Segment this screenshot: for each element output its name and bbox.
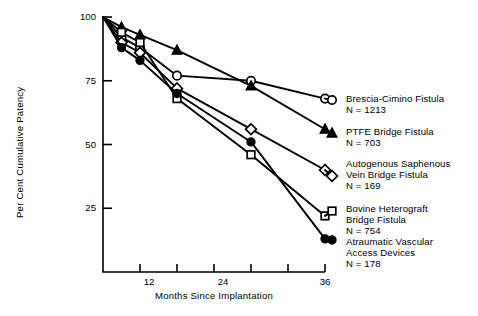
legend-item-atraumatic-vascular: Atraumatic Vascular Access Devices N = 1…	[346, 236, 433, 270]
legend-label-line-1: Atraumatic Vascular	[346, 236, 433, 247]
y-axis-label: Per Cent Cumulative Patency	[14, 87, 25, 218]
marker-filled-circle	[136, 56, 144, 64]
marker-filled-circle	[118, 44, 126, 52]
series-line	[103, 17, 325, 129]
legend-label-line-1: PTFE Bridge Fistula	[346, 126, 434, 137]
marker-open-diamond	[246, 124, 257, 135]
marker-open-circle	[173, 71, 181, 79]
legend-item-ptfe: PTFE Bridge Fistula N = 703	[346, 126, 434, 148]
legend-label-line-3: N = 178	[346, 258, 433, 269]
y-tick-label-100: 100	[54, 11, 96, 22]
legend-item-saphenous-vein: Autogenous Saphenous Vein Bridge Fistula…	[346, 158, 450, 192]
legend-label-line-2: Access Devices	[346, 247, 433, 258]
legend-label-line-2: Vein Bridge Fistula	[346, 169, 450, 180]
marker-open-square	[118, 29, 126, 37]
marker-open-square	[247, 151, 255, 159]
marker-open-square	[328, 207, 336, 215]
legend-label-line-3: N = 754	[346, 225, 428, 236]
marker-filled-circle	[328, 236, 336, 244]
x-tick-label-24: 24	[209, 276, 237, 287]
marker-open-square	[136, 39, 144, 47]
legend-label-line-1: Brescia-Cimino Fistula	[346, 93, 444, 104]
legend-label-line-1: Bovine Heterograft	[346, 203, 428, 214]
marker-filled-circle	[247, 138, 255, 146]
y-tick-label-50: 50	[54, 139, 96, 150]
marker-filled-circle	[173, 90, 181, 98]
series-2	[103, 17, 330, 133]
y-tick-label-25: 25	[54, 202, 96, 213]
legend-item-brescia-cimino: Brescia-Cimino Fistula N = 1213	[346, 93, 444, 115]
x-tick-label-12: 12	[135, 276, 163, 287]
legend-label-line-2: N = 1213	[346, 104, 444, 115]
legend-label-line-2: N = 703	[346, 137, 434, 148]
legend-label-line-2: Bridge Fistula	[346, 214, 428, 225]
x-tick-label-36: 36	[311, 276, 339, 287]
legend-label-line-3: N = 169	[346, 180, 450, 191]
chart-figure: Per Cent Cumulative Patency Months Since…	[0, 0, 478, 316]
legend-label-line-1: Autogenous Saphenous	[346, 158, 450, 169]
marker-open-circle	[328, 96, 336, 104]
y-tick-label-75: 75	[54, 75, 96, 86]
data-series	[103, 17, 330, 243]
legend-item-bovine-heterograft: Bovine Heterograft Bridge Fistula N = 75…	[346, 203, 428, 237]
x-axis-label: Months Since Implantation	[103, 290, 325, 301]
